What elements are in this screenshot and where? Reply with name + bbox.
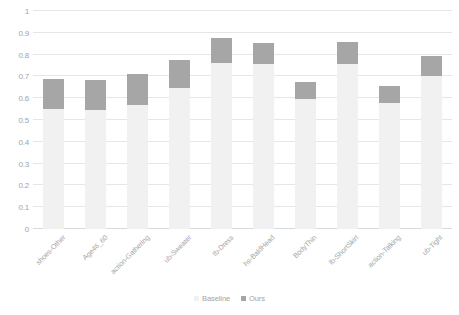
bar-segment-ours [169, 60, 190, 88]
bar-segment-baseline [169, 88, 190, 229]
legend-swatch-icon [194, 296, 199, 301]
x-axis: shoes-OtherAge46_60action-Gatheringub-Sw… [33, 229, 452, 291]
y-axis-tick-label: 0 [25, 225, 29, 234]
bar-segment-ours [253, 43, 274, 65]
bar-group [43, 11, 64, 229]
x-axis-tick-label: action-Gathering [108, 233, 151, 276]
bar-segment-ours [43, 79, 64, 110]
legend-label: Baseline [202, 294, 230, 303]
bar-segment-ours [127, 74, 148, 105]
bar-segment-baseline [337, 64, 358, 229]
y-axis-tick-label: 0.4 [18, 137, 29, 146]
plot-area [33, 11, 452, 229]
y-axis: 00.10.20.30.40.50.60.70.80.91 [0, 0, 33, 240]
bar-segment-baseline [127, 105, 148, 229]
bar-group [127, 11, 148, 229]
bar-segment-ours [85, 80, 106, 111]
legend-swatch-icon [241, 296, 246, 301]
x-axis-tick-label: BodyThin [291, 233, 318, 260]
x-axis-tick-label: ub-Sweater [161, 233, 193, 265]
bar-segment-ours [421, 56, 442, 77]
y-axis-tick-label: 0.6 [18, 94, 29, 103]
y-axis-tick-label: 0.5 [18, 116, 29, 125]
bar-segment-baseline [421, 76, 442, 229]
bar-group [169, 11, 190, 229]
x-axis-tick-label: action-Talking [366, 233, 402, 269]
bar-group [85, 11, 106, 229]
chart-legend: BaselineOurs [0, 294, 459, 303]
bar-group [379, 11, 400, 229]
bar-segment-ours [295, 82, 316, 99]
bar-group [211, 11, 232, 229]
x-axis-tick-label: Age46_60 [80, 233, 109, 262]
x-axis-tick-label: lb-ShortSkirt [327, 233, 360, 266]
bar-segment-baseline [43, 109, 64, 229]
bar-segment-ours [211, 38, 232, 63]
bar-group [295, 11, 316, 229]
bar-chart: 00.10.20.30.40.50.60.70.80.91 shoes-Othe… [0, 0, 459, 315]
bar-segment-ours [379, 86, 400, 102]
bar-group [421, 11, 442, 229]
y-axis-tick-label: 0.8 [18, 50, 29, 59]
bar-segment-baseline [379, 103, 400, 229]
legend-label: Ours [249, 294, 265, 303]
legend-item[interactable]: Ours [241, 294, 265, 303]
y-axis-tick-label: 1 [25, 7, 29, 16]
x-axis-tick-label: ub-Tight [420, 233, 444, 257]
x-axis-tick-label: shoes-Other [34, 233, 68, 267]
x-axis-tick-label: tb-Dress [210, 233, 235, 258]
y-axis-tick-label: 0.3 [18, 159, 29, 168]
bar-segment-baseline [211, 63, 232, 229]
y-axis-tick-label: 0.1 [18, 203, 29, 212]
y-axis-tick-label: 0.9 [18, 28, 29, 37]
y-axis-tick-label: 0.2 [18, 181, 29, 190]
x-axis-tick-label: hs-BaldHead [242, 233, 277, 268]
bar-segment-baseline [253, 64, 274, 229]
bar-group [253, 11, 274, 229]
y-axis-tick-label: 0.7 [18, 72, 29, 81]
bar-segment-baseline [295, 99, 316, 229]
bar-segment-ours [337, 42, 358, 65]
bar-group [337, 11, 358, 229]
legend-item[interactable]: Baseline [194, 294, 230, 303]
bar-segment-baseline [85, 110, 106, 229]
